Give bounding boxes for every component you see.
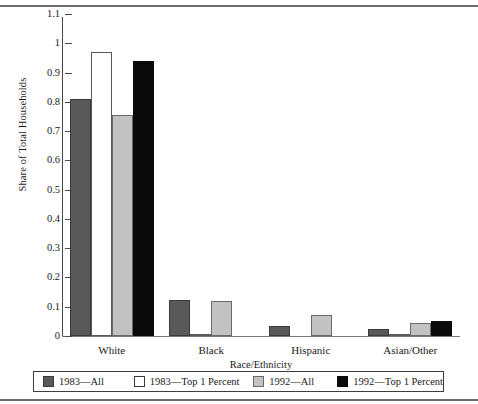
bar-group: Hispanic <box>269 14 353 336</box>
y-tick-label: 1 <box>55 37 60 49</box>
legend-swatch <box>134 376 145 387</box>
legend-item: 1983—Top 1 Percent <box>125 376 244 387</box>
x-tick-label: Asian/Other <box>383 344 437 356</box>
y-tick: 0.1 <box>14 301 72 313</box>
y-tick: 0.7 <box>14 125 72 137</box>
y-tick: 1 <box>14 37 72 49</box>
bar <box>389 334 410 336</box>
bar-chart-figure: Share of Total Households 1.110.90.80.70… <box>0 7 478 399</box>
bottom-divider-rule <box>0 399 478 401</box>
plot-area: 1.110.90.80.70.60.50.40.30.20.10 WhiteBl… <box>62 10 467 340</box>
legend-item: 1992—All <box>244 376 328 387</box>
bar <box>70 99 91 336</box>
y-tick-label: 0.8 <box>47 96 60 108</box>
y-tick-label: 0.2 <box>47 271 60 283</box>
y-tick: 0.3 <box>14 242 72 254</box>
legend-item: 1992—Top 1 Percent <box>328 376 443 387</box>
legend-label: 1992—All <box>269 376 314 387</box>
y-tick: 0.2 <box>14 271 72 283</box>
y-tick-label: 1.1 <box>47 8 60 20</box>
y-tick: 0.9 <box>14 67 72 79</box>
y-tick-label: 0 <box>55 330 60 342</box>
y-tick-label: 0.1 <box>47 301 60 313</box>
bar <box>311 315 332 336</box>
y-tick: 0.5 <box>14 184 72 196</box>
legend-swatch <box>43 376 54 387</box>
x-tick-label: Hispanic <box>291 344 330 356</box>
legend-swatch <box>253 376 264 387</box>
y-tick: 0.8 <box>14 96 72 108</box>
bar <box>169 300 190 336</box>
chart-legend: 1983—All1983—Top 1 Percent1992—All1992—T… <box>33 371 444 392</box>
bar-group: White <box>70 14 154 336</box>
bar <box>211 301 232 336</box>
bar <box>269 326 290 336</box>
y-axis-line <box>62 17 63 336</box>
bar <box>410 323 431 336</box>
y-tick: 0.4 <box>14 213 72 225</box>
x-tick-label: White <box>98 344 125 356</box>
x-axis-line <box>62 336 460 337</box>
legend-label: 1983—Top 1 Percent <box>150 376 240 387</box>
y-tick-mark <box>65 336 72 337</box>
y-tick-label: 0.3 <box>47 242 60 254</box>
y-tick: 0.6 <box>14 154 72 166</box>
bar <box>431 321 452 336</box>
x-axis-title: Race/Ethnicity <box>62 359 460 370</box>
y-tick: 0 <box>14 330 72 342</box>
bar <box>133 61 154 336</box>
legend-label: 1983—All <box>59 376 104 387</box>
bar-group: Asian/Other <box>368 14 452 336</box>
legend-swatch <box>337 376 348 387</box>
bar <box>368 329 389 336</box>
legend-label: 1992—Top 1 Percent <box>353 376 443 387</box>
y-tick-label: 0.6 <box>47 154 60 166</box>
y-tick-label: 0.4 <box>47 213 60 225</box>
y-tick-label: 0.9 <box>47 67 60 79</box>
bar <box>190 334 211 336</box>
y-tick: 1.1 <box>14 8 72 20</box>
bar-group: Black <box>169 14 253 336</box>
bar <box>91 52 112 336</box>
legend-item: 1983—All <box>34 376 125 387</box>
y-tick-label: 0.7 <box>47 125 60 137</box>
y-tick-label: 0.5 <box>47 184 60 196</box>
bar <box>112 115 133 336</box>
x-tick-label: Black <box>198 344 224 356</box>
